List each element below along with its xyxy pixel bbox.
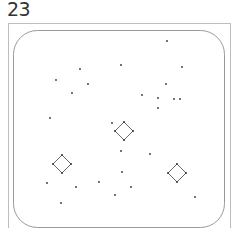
diamond-vertex <box>176 181 178 183</box>
point <box>75 186 77 188</box>
diamond-vertex <box>123 139 125 141</box>
point <box>46 182 48 184</box>
diamond-vertex <box>70 163 72 165</box>
point <box>87 83 89 85</box>
point <box>120 64 122 66</box>
point <box>166 40 168 42</box>
point <box>194 196 196 198</box>
point <box>181 66 183 68</box>
point <box>179 98 181 100</box>
diamond-vertex <box>132 130 134 132</box>
diamond-vertex <box>176 163 178 165</box>
diamond-vertex <box>61 172 63 174</box>
point <box>130 186 132 188</box>
diamond-right <box>168 164 186 182</box>
point <box>55 79 57 81</box>
point <box>49 117 51 119</box>
outer-frame <box>9 24 231 229</box>
diamond-vertex <box>114 130 116 132</box>
diagram-canvas <box>0 0 231 228</box>
point <box>71 92 73 94</box>
point <box>120 150 122 152</box>
dot-group <box>46 40 196 204</box>
rounded-boundary <box>14 31 225 228</box>
diamond-vertex <box>123 121 125 123</box>
diamond-left <box>53 155 71 173</box>
point <box>98 181 100 183</box>
diamond-center <box>115 122 133 140</box>
point <box>121 171 123 173</box>
point <box>114 194 116 196</box>
point <box>173 98 175 100</box>
diamond-vertex <box>167 172 169 174</box>
point <box>157 107 159 109</box>
point <box>111 122 113 124</box>
diamond-vertex <box>61 154 63 156</box>
diamond-vertex <box>185 172 187 174</box>
point <box>149 153 151 155</box>
point <box>141 94 143 96</box>
point <box>157 97 159 99</box>
point <box>165 83 167 85</box>
point <box>79 68 81 70</box>
point <box>60 202 62 204</box>
diamond-vertex <box>52 163 54 165</box>
diamond-group <box>52 121 187 183</box>
